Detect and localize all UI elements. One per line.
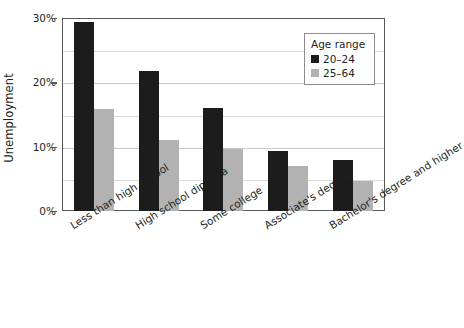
legend-swatch-icon [311, 55, 319, 63]
legend-label: 25–64 [323, 67, 355, 79]
legend-swatch-icon [311, 69, 319, 77]
bar[interactable] [74, 22, 94, 211]
legend-entry[interactable]: 20–24 [311, 53, 368, 65]
legend-label: 20–24 [323, 53, 355, 65]
bar[interactable] [268, 151, 288, 211]
y-axis-tick-mark [51, 211, 57, 212]
y-axis-tick-mark [51, 18, 57, 19]
y-axis-tick-mark [51, 82, 57, 83]
y-axis-tick-mark [51, 147, 57, 148]
legend-title: Age range [311, 38, 368, 50]
y-axis-tick-marks [0, 18, 62, 211]
bar[interactable] [203, 108, 223, 211]
bar[interactable] [139, 71, 159, 211]
legend-entry[interactable]: 25–64 [311, 67, 368, 79]
legend: Age range 20–2425–64 [304, 33, 375, 85]
legend-entries: 20–2425–64 [311, 53, 368, 79]
bar-group [62, 18, 127, 211]
